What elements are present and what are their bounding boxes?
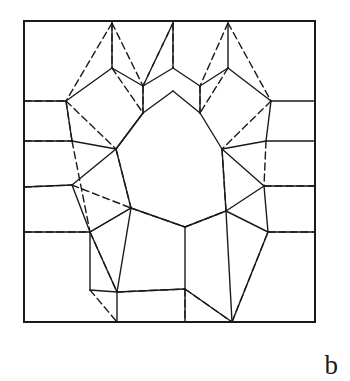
figure-background	[0, 0, 350, 381]
figure-panel: b	[0, 0, 350, 381]
polyhedron-diagram	[0, 0, 350, 381]
panel-label: b	[325, 352, 339, 379]
